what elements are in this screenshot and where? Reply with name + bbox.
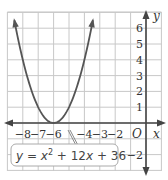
curve-left-arrow-icon xyxy=(13,18,19,27)
x-tick-label: −8 xyxy=(15,128,31,141)
x-tick-label: −2 xyxy=(107,128,123,141)
y-axis-down-arrow-icon xyxy=(143,167,150,176)
x-axis xyxy=(4,120,166,127)
parabola-graph: −8−7−6−4−3−2 654321−2 y x O y = x2 + 12x… xyxy=(0,0,168,180)
y-tick-label: 4 xyxy=(136,54,143,67)
x-tick-label: −6 xyxy=(45,128,61,141)
eq-term-36: + 36 xyxy=(93,149,126,163)
y-axis-label: y xyxy=(152,9,160,23)
origin-label: O xyxy=(132,127,142,141)
eq-term-12: + 12 xyxy=(53,149,86,163)
y-tick-label: −2 xyxy=(127,149,143,162)
x-axis-left-arrow-icon xyxy=(4,120,13,127)
svg-text:y = x2 + 12x + 36: y = x2 + 12x + 36 xyxy=(15,148,126,163)
y-tick-label: 6 xyxy=(136,22,143,35)
y-tick-label: 3 xyxy=(136,70,143,83)
y-axis-up-arrow-icon xyxy=(143,10,150,19)
eq-equals: = xyxy=(23,149,41,163)
y-axis xyxy=(143,10,150,176)
x-tick-label: −3 xyxy=(92,128,108,141)
equation-label: y = x2 + 12x + 36 xyxy=(11,144,126,166)
x-tick-label: −7 xyxy=(30,128,46,141)
x-tick-label: −4 xyxy=(76,128,92,141)
y-tick-label: 5 xyxy=(136,38,143,51)
curve-right-arrow-icon xyxy=(88,18,94,27)
x-axis-label: x xyxy=(153,127,160,141)
y-tick-label: 1 xyxy=(136,101,143,114)
y-tick-label: 2 xyxy=(136,85,143,98)
